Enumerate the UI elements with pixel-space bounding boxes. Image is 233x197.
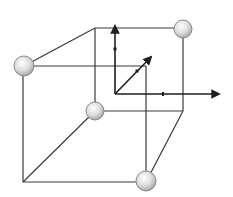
x-axis-tick [162, 92, 164, 96]
atom-back-bottom-left [86, 102, 104, 120]
cube-edges [23, 28, 183, 182]
z-axis-tick [114, 48, 117, 51]
top-left-connector [24, 28, 95, 66]
atom-front-top-left [14, 56, 34, 76]
bottom-left-connector [23, 111, 95, 182]
unit-cell-diagram [0, 0, 233, 197]
coordinate-axes [115, 26, 219, 94]
y-axis-tick [136, 70, 139, 73]
bottom-right-connector [146, 111, 183, 182]
atom-back-top-right [174, 20, 192, 38]
cube-diagram-svg [0, 0, 233, 197]
atom-front-bottom-right [136, 171, 156, 191]
